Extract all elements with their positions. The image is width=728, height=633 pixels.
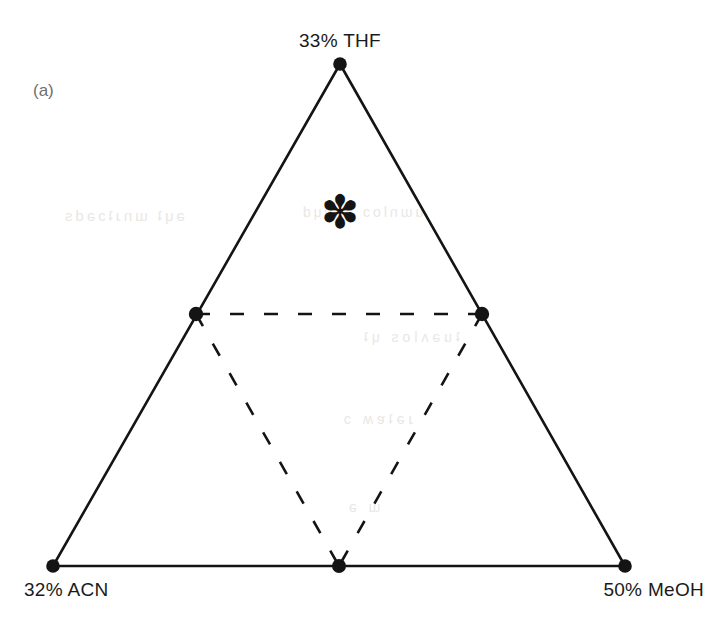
vertex-dot-apex (333, 57, 347, 71)
vertex-label-acn: 32% ACN (24, 580, 108, 599)
vertex-dot-bottom-left (46, 559, 60, 573)
vertex-dot-left-mid (189, 307, 203, 321)
ternary-triangle-plot (0, 0, 728, 633)
vertex-dot-bottom-center (332, 559, 346, 573)
vertex-label-thf: 33% THF (299, 31, 381, 50)
vertex-dot-right-mid (475, 307, 489, 321)
panel-label: (a) (33, 82, 54, 99)
asterisk-marker: ✽ (321, 189, 360, 235)
inner-triangle-edge-right (339, 314, 482, 566)
ternary-diagram-figure: ǝɥʇ ɯnɹʇɔǝds uɯnloɔ ǝsɐɥd ʇuǝʌlos ɥʇ ɹǝʇ… (0, 0, 728, 633)
vertex-label-meoh: 50% MeOH (603, 580, 704, 599)
vertex-dot-bottom-right (618, 559, 632, 573)
inner-triangle-edge-left (196, 314, 339, 566)
